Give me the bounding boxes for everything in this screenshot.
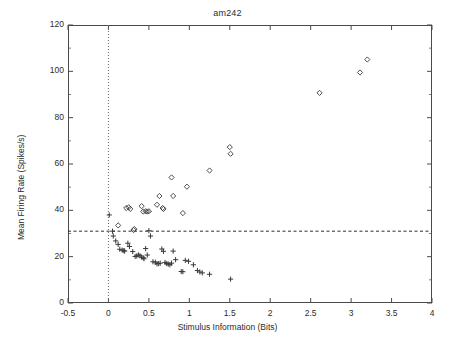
data-point-diamond [184,184,189,189]
data-point-diamond [317,90,322,95]
data-point-diamond [139,204,144,209]
data-point-plus [207,272,212,277]
data-point-diamond [116,223,121,228]
data-point-diamond [169,175,174,180]
data-point-diamond [180,211,185,216]
data-point-plus [186,259,191,264]
data-point-plus [130,249,135,254]
data-point-diamond [227,144,232,149]
data-point-plus [148,233,153,238]
data-point-plus [116,242,121,247]
data-point-plus [107,212,112,217]
data-point-diamond [160,205,165,210]
data-point-diamond [161,206,166,211]
data-point-diamond [228,151,233,156]
data-point-diamond [365,57,370,62]
data-point-diamond [357,70,362,75]
data-point-diamond [157,193,162,198]
data-point-plus [191,262,196,267]
data-point-diamond [171,193,176,198]
data-point-plus [228,277,233,282]
data-point-plus [143,246,148,251]
data-point-plus [110,229,115,234]
scatter-plot-canvas [0,0,455,344]
data-point-plus [200,270,205,275]
data-point-plus [122,249,127,254]
data-point-plus [183,258,188,263]
data-point-plus [171,249,176,254]
data-point-plus [145,252,150,257]
data-point-diamond [207,168,212,173]
data-point-plus [173,257,178,262]
data-point-diamond [154,202,159,207]
chart-figure: am242 Mean Firing Rate (Spikes/s) Stimul… [0,0,455,344]
data-point-plus [111,233,116,238]
data-point-diamond [131,227,136,232]
data-point-plus [113,238,118,243]
data-point-plus [146,228,151,233]
